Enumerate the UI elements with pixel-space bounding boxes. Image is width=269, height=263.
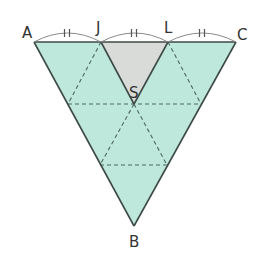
label-L: L (164, 19, 173, 37)
label-C: C (237, 26, 247, 44)
geometry-diagram: A J L C S B (0, 0, 269, 263)
label-J: J (95, 19, 100, 37)
label-A: A (22, 24, 33, 42)
label-B: B (129, 233, 139, 251)
label-S: S (129, 84, 139, 102)
